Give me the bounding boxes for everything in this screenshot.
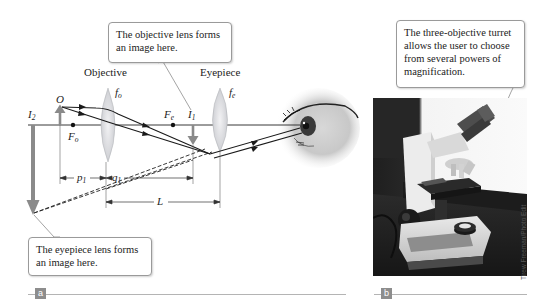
panel-a-rule [46, 294, 346, 295]
panel-tag-b: b [381, 288, 392, 299]
focal-point-Fo [71, 123, 75, 127]
I1-label: I1 [188, 108, 195, 122]
callout-pointer-objective [158, 60, 191, 110]
callout-pointer-eyepiece [34, 215, 60, 237]
fe-label: fe [229, 86, 235, 100]
I2-label: I2 [28, 108, 35, 122]
microscope-photo [373, 98, 527, 276]
compound-microscope-illustration [373, 98, 527, 276]
objective-lens [101, 88, 115, 162]
final-image-arrow [27, 125, 40, 215]
objective-label: Objective [84, 66, 127, 78]
Fe-label: Fe [164, 108, 174, 122]
L-label: L [157, 195, 163, 207]
eye-illustration [276, 88, 360, 168]
callout-turret: The three-objective turret allows the us… [396, 20, 525, 88]
fo-label: fo [115, 86, 122, 100]
q1-label: q1 [112, 171, 121, 185]
panel-a-rule [28, 294, 35, 295]
Fo-label: Fo [68, 130, 78, 144]
eyepiece-lens [213, 88, 228, 152]
panel-b-rule [392, 294, 527, 295]
photo-credit: Tirew Freeman/Photo Edit [520, 205, 527, 280]
callout-eyepiece-image: The eyepiece lens forms an image here. [28, 237, 152, 276]
p1-label: p1 [77, 171, 86, 185]
panel-b-rule [374, 294, 381, 295]
eyepiece-label: Eyepiece [200, 66, 240, 78]
light-rays [62, 107, 302, 158]
panel-tag-a: a [35, 288, 46, 299]
focal-point-Fe [171, 123, 175, 127]
virtual-image-rays [34, 149, 212, 213]
callout-objective-image: The objective lens forms an image here. [108, 22, 232, 63]
object-O-label: O [56, 93, 64, 105]
